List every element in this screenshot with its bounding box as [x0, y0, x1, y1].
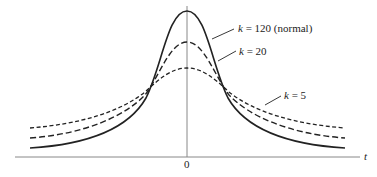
leader-k5 — [265, 96, 281, 105]
label-k120: k = 120 (normal) — [238, 22, 313, 35]
leader-k20 — [218, 51, 236, 61]
label-k5: k = 5 — [284, 89, 307, 101]
x-axis-label: t — [364, 150, 368, 162]
leader-k120 — [212, 29, 234, 39]
label-k20: k = 20 — [239, 45, 267, 57]
t-distribution-chart: k = 120 (normal) k = 20 k = 5 0 t — [0, 0, 377, 177]
origin-tick-label: 0 — [184, 158, 190, 170]
